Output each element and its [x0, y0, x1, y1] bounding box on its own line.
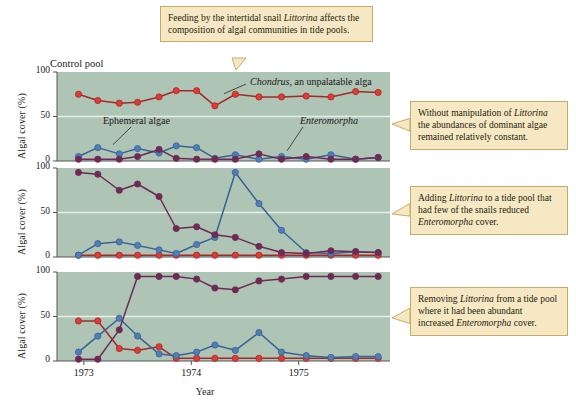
data-point-ephemeral-algae — [232, 347, 238, 353]
data-point-enteromorpha — [232, 156, 238, 162]
data-point-enteromorpha — [353, 273, 359, 279]
data-point-enteromorpha — [194, 156, 200, 162]
data-point-enteromorpha — [95, 171, 101, 177]
data-point-enteromorpha — [375, 154, 381, 160]
data-point-ephemeral-algae — [278, 349, 284, 355]
data-point-enteromorpha — [95, 156, 101, 162]
data-point-enteromorpha — [212, 232, 218, 238]
data-point-ephemeral-algae — [173, 353, 179, 359]
data-point-enteromorpha — [173, 155, 179, 161]
data-point-ephemeral-algae — [328, 354, 334, 360]
chart-panel-3 — [53, 272, 390, 362]
data-point-ephemeral-algae — [353, 353, 359, 359]
data-point-enteromorpha — [95, 356, 101, 362]
data-point-chondrus — [278, 355, 284, 361]
y-tick-label: 50 — [26, 206, 50, 216]
data-point-ephemeral-algae — [95, 333, 101, 339]
data-point-chondrus — [194, 88, 200, 94]
y-tick-label: 0 — [26, 354, 50, 364]
y-tick-label: 100 — [26, 65, 50, 75]
series-label-ephemeral-algae: Ephemeral algae — [103, 115, 170, 126]
data-point-chondrus — [134, 252, 140, 258]
callout-littorina-added: Adding Littorina to a tide pool that had… — [410, 186, 568, 235]
data-point-chondrus — [353, 88, 359, 94]
data-point-ephemeral-algae — [256, 329, 262, 335]
data-point-chondrus — [75, 318, 81, 324]
data-point-enteromorpha — [156, 146, 162, 152]
data-point-enteromorpha — [116, 187, 122, 193]
data-point-enteromorpha — [328, 156, 334, 162]
series-label-chondrus: Chondrus, an unpalatable alga — [250, 76, 372, 87]
data-point-enteromorpha — [328, 248, 334, 254]
data-point-enteromorpha — [375, 249, 381, 255]
data-point-enteromorpha — [194, 276, 200, 282]
data-point-enteromorpha — [353, 249, 359, 255]
data-point-ephemeral-algae — [156, 247, 162, 253]
data-point-chondrus — [278, 94, 284, 100]
data-point-ephemeral-algae — [134, 333, 140, 339]
data-point-enteromorpha — [256, 151, 262, 157]
data-point-ephemeral-algae — [116, 239, 122, 245]
data-point-enteromorpha — [134, 273, 140, 279]
callout-1-pointer — [392, 118, 410, 131]
data-point-enteromorpha — [156, 273, 162, 279]
data-point-enteromorpha — [134, 153, 140, 159]
data-point-chondrus — [134, 99, 140, 105]
data-point-enteromorpha — [156, 193, 162, 199]
data-point-chondrus — [95, 252, 101, 258]
figure-root: Control pool Algal cover (%) Algal cover… — [0, 0, 576, 404]
data-point-ephemeral-algae — [232, 169, 238, 175]
y-tick-label: 50 — [26, 110, 50, 120]
data-point-ephemeral-algae — [194, 241, 200, 247]
data-point-chondrus — [256, 252, 262, 258]
data-point-ephemeral-algae — [194, 145, 200, 151]
data-point-chondrus — [156, 344, 162, 350]
data-point-ephemeral-algae — [212, 342, 218, 348]
data-point-chondrus — [212, 103, 218, 109]
data-point-chondrus — [212, 355, 218, 361]
data-point-ephemeral-algae — [134, 145, 140, 151]
data-point-enteromorpha — [278, 156, 284, 162]
data-point-ephemeral-algae — [75, 349, 81, 355]
data-point-ephemeral-algae — [116, 315, 122, 321]
data-point-ephemeral-algae — [156, 351, 162, 357]
data-point-enteromorpha — [134, 181, 140, 187]
y-tick-label: 0 — [26, 250, 50, 260]
data-point-ephemeral-algae — [95, 241, 101, 247]
data-point-ephemeral-algae — [134, 242, 140, 248]
figure-caption-box: Feeding by the intertidal snail Littorin… — [160, 6, 373, 42]
caption-pointer — [232, 58, 246, 70]
data-point-enteromorpha — [303, 250, 309, 256]
data-point-enteromorpha — [173, 225, 179, 231]
data-point-enteromorpha — [375, 273, 381, 279]
data-point-ephemeral-algae — [375, 353, 381, 359]
series-label-enteromorpha: Enteromorpha — [300, 115, 358, 126]
data-point-ephemeral-algae — [256, 201, 262, 207]
x-tick-label: 1974 — [169, 367, 213, 378]
data-point-chondrus — [256, 355, 262, 361]
data-point-enteromorpha — [75, 156, 81, 162]
callout-3-pointer — [392, 308, 410, 323]
data-point-enteromorpha — [256, 243, 262, 249]
data-point-chondrus — [95, 97, 101, 103]
data-point-enteromorpha — [278, 276, 284, 282]
data-point-enteromorpha — [173, 273, 179, 279]
data-point-ephemeral-algae — [173, 250, 179, 256]
y-axis-label-panel-3: Algal cover (%) — [16, 293, 27, 359]
data-point-chondrus — [116, 345, 122, 351]
data-point-enteromorpha — [212, 285, 218, 291]
data-point-chondrus — [134, 347, 140, 353]
data-point-enteromorpha — [232, 287, 238, 293]
callout-2-pointer — [392, 203, 410, 216]
chart-panel-2 — [53, 168, 390, 258]
data-point-ephemeral-algae — [75, 252, 81, 258]
y-axis-label-panel-2: Algal cover (%) — [16, 189, 27, 255]
callout-littorina-removed: Removing Littorina from a tide pool wher… — [410, 287, 568, 336]
data-point-enteromorpha — [75, 169, 81, 175]
data-point-enteromorpha — [353, 156, 359, 162]
x-axis-label: Year — [183, 386, 227, 397]
y-tick-label: 100 — [26, 161, 50, 171]
data-point-ephemeral-algae — [95, 145, 101, 151]
data-point-chondrus — [156, 94, 162, 100]
data-point-enteromorpha — [256, 278, 262, 284]
